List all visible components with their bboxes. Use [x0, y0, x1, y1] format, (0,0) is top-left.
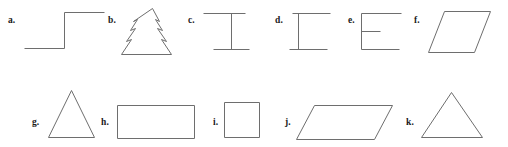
figure-label-d: d. [275, 16, 283, 26]
figure-label-e: e. [348, 16, 355, 26]
figure-k-triangle-wide [421, 92, 482, 137]
figure-h-outline [118, 106, 195, 139]
figure-f-outline [429, 12, 491, 53]
figure-i-square [224, 102, 259, 137]
figure-k-outline [422, 93, 483, 138]
figure-c-i-beam-right [203, 12, 245, 50]
figure-label-c: c. [188, 16, 195, 26]
figure-a-step-line [24, 10, 104, 50]
shape-figure-sheet: a.b.c.d.e.f.g.h.i.j.k. [0, 0, 508, 147]
figure-j-outline [297, 106, 393, 140]
figure-j-parallelogram-wide [296, 105, 392, 139]
figure-b-outline [122, 9, 172, 55]
figure-g-triangle-narrow [48, 90, 94, 137]
figure-i-outline [225, 103, 260, 138]
figure-label-a: a. [8, 16, 15, 26]
figure-label-h: h. [101, 118, 109, 128]
figure-label-g: g. [32, 118, 39, 128]
figure-d-outline [290, 14, 331, 50]
figure-b-fir-tree [121, 8, 183, 56]
figure-e-f-shape [361, 12, 401, 50]
figure-label-f: f. [414, 16, 420, 26]
figure-e-outline [362, 14, 402, 50]
figure-d-i-beam-left [289, 12, 331, 50]
figure-c-outline [204, 14, 250, 50]
figure-g-outline [49, 91, 95, 138]
figure-label-j: j. [285, 118, 291, 128]
figure-f-parallelogram-tall [428, 11, 490, 52]
figure-label-i: i. [213, 118, 218, 128]
figure-label-k: k. [406, 118, 414, 128]
figure-h-rectangle-wide [117, 105, 194, 138]
figure-a-outline [25, 13, 105, 49]
figure-label-b: b. [108, 16, 116, 26]
